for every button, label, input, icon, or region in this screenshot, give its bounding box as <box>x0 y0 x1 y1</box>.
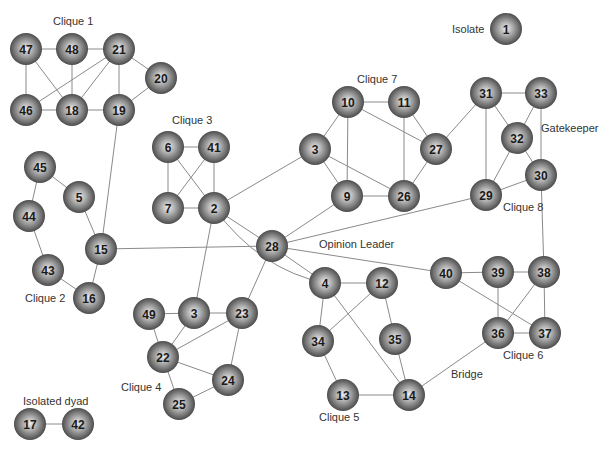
node-label: 36 <box>491 327 505 341</box>
edge-19-15 <box>101 110 119 249</box>
node-27: 27 <box>420 133 452 165</box>
annotation-clique4: Clique 4 <box>121 381 161 393</box>
edge-2-3b <box>194 208 214 313</box>
node-label: 35 <box>388 333 402 347</box>
node-label: 43 <box>41 264 55 278</box>
node-16: 16 <box>73 282 105 314</box>
node-23: 23 <box>226 297 258 329</box>
annotation-clique5: Clique 5 <box>319 411 359 423</box>
node-label: 23 <box>235 307 249 321</box>
node-label: 41 <box>207 141 221 155</box>
node-36: 36 <box>482 317 514 349</box>
edge-14-36 <box>409 333 498 395</box>
node-label: 30 <box>534 169 548 183</box>
node-label: 11 <box>398 96 411 110</box>
node-7: 7 <box>152 192 184 224</box>
node-3a: 3 <box>299 133 331 165</box>
node-label: 22 <box>156 351 170 365</box>
annotation-bridge: Bridge <box>451 368 483 380</box>
node-26: 26 <box>388 180 420 212</box>
annotation-clique3: Clique 3 <box>172 114 212 126</box>
node-20: 20 <box>145 62 177 94</box>
node-label: 26 <box>397 190 411 204</box>
node-32: 32 <box>501 122 533 154</box>
node-label: 31 <box>479 87 493 101</box>
node-label: 47 <box>19 43 33 57</box>
node-label: 29 <box>479 189 493 203</box>
node-label: 32 <box>510 132 524 146</box>
annotation-clique7: Clique 7 <box>357 73 397 85</box>
node-17: 17 <box>14 408 46 440</box>
node-label: 15 <box>94 243 108 257</box>
node-9: 9 <box>331 180 363 212</box>
node-label: 48 <box>65 43 79 57</box>
node-22: 22 <box>147 341 179 373</box>
annotation-clique6: Clique 6 <box>503 349 543 361</box>
node-label: 5 <box>76 191 83 205</box>
node-12: 12 <box>366 267 398 299</box>
node-40: 40 <box>430 257 462 289</box>
node-label: 24 <box>221 374 235 388</box>
node-19: 19 <box>103 94 135 126</box>
node-14: 14 <box>393 379 425 411</box>
node-25: 25 <box>163 388 195 420</box>
node-label: 44 <box>22 210 36 224</box>
node-3b: 3 <box>178 297 210 329</box>
node-label: 40 <box>439 267 453 281</box>
node-37: 37 <box>529 317 561 349</box>
node-label: 46 <box>19 104 33 118</box>
edge-2-3a <box>214 149 315 208</box>
node-11: 11 <box>388 86 420 118</box>
node-6: 6 <box>152 131 184 163</box>
node-33: 33 <box>525 77 557 109</box>
node-label: 20 <box>154 72 168 86</box>
node-label: 1 <box>503 23 510 37</box>
annotation-clique2: Clique 2 <box>25 292 65 304</box>
node-45: 45 <box>24 151 56 183</box>
annotation-gatekeeper: Gatekeeper <box>541 122 599 134</box>
node-30: 30 <box>525 159 557 191</box>
node-label: 38 <box>537 266 551 280</box>
node-label: 6 <box>165 141 172 155</box>
node-label: 7 <box>165 202 172 216</box>
annotation-isolate: Isolate <box>452 23 484 35</box>
node-label: 13 <box>336 389 350 403</box>
annotation-isolated-dyad: Isolated dyad <box>23 395 88 407</box>
node-43: 43 <box>32 254 64 286</box>
node-label: 25 <box>172 398 186 412</box>
node-24: 24 <box>212 364 244 396</box>
node-label: 21 <box>112 43 126 57</box>
node-2: 2 <box>198 192 230 224</box>
annotation-opinion-leader: Opinion Leader <box>319 238 395 250</box>
node-46: 46 <box>10 94 42 126</box>
node-34: 34 <box>302 325 334 357</box>
node-label: 18 <box>65 104 79 118</box>
node-29: 29 <box>470 179 502 211</box>
node-label: 3 <box>312 143 319 157</box>
node-label: 3 <box>191 307 198 321</box>
node-label: 45 <box>33 161 47 175</box>
node-47: 47 <box>10 33 42 65</box>
node-48: 48 <box>56 33 88 65</box>
node-31: 31 <box>470 77 502 109</box>
node-15: 15 <box>85 233 117 265</box>
node-label: 12 <box>375 277 389 291</box>
node-13: 13 <box>327 379 359 411</box>
node-label: 33 <box>534 87 548 101</box>
annotation-clique8: Clique 8 <box>503 201 543 213</box>
node-label: 19 <box>112 104 126 118</box>
node-label: 37 <box>538 327 552 341</box>
node-18: 18 <box>56 94 88 126</box>
node-label: 16 <box>82 292 96 306</box>
annotations-layer: Clique 1IsolateClique 7Clique 3Gatekeepe… <box>23 15 599 423</box>
node-label: 34 <box>311 335 325 349</box>
node-41: 41 <box>198 131 230 163</box>
node-label: 42 <box>71 418 85 432</box>
node-44: 44 <box>13 200 45 232</box>
node-10: 10 <box>332 86 364 118</box>
network-diagram: Clique 1IsolateClique 7Clique 3Gatekeepe… <box>0 0 610 453</box>
node-21: 21 <box>103 33 135 65</box>
node-label: 10 <box>341 96 355 110</box>
node-38: 38 <box>528 256 560 288</box>
edge-15-28 <box>101 246 272 249</box>
